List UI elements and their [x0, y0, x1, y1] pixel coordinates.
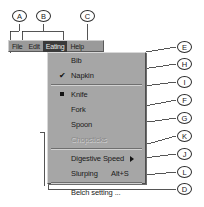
figure-root: File Edit Eating Help Bib ✔ Napkin Knife…	[0, 0, 204, 207]
menu-separator-2	[51, 148, 142, 150]
menubar-item-edit-label: Edit	[28, 43, 39, 50]
menu-item-spoon[interactable]: Spoon	[48, 117, 145, 132]
callout-F: F	[177, 94, 192, 106]
menu-item-bib-label: Bib	[71, 57, 82, 65]
callout-K: K	[177, 130, 192, 142]
callout-C: C	[80, 10, 95, 22]
eating-dropdown-menu: Bib ✔ Napkin Knife Fork Spoon Chopsticks…	[47, 52, 146, 184]
menubar-item-help-label: Help	[70, 43, 84, 50]
menu-item-digestive-speed-label: Digestive Speed	[71, 155, 124, 163]
callout-D: D	[177, 183, 192, 195]
callout-L: L	[177, 166, 192, 178]
menubar-item-edit[interactable]: Edit	[25, 41, 42, 52]
menubar-item-eating-label: Eating	[46, 43, 65, 50]
menu-item-spoon-label: Spoon	[71, 121, 92, 129]
menu-item-knife-label: Knife	[71, 91, 88, 99]
menu-item-fork[interactable]: Fork	[48, 102, 145, 117]
callout-J: J	[177, 148, 192, 160]
menu-item-belch-setting-label: Belch setting ...	[71, 189, 121, 197]
menu-item-fork-label: Fork	[71, 106, 86, 114]
callout-E: E	[177, 41, 192, 53]
menubar-item-file[interactable]: File	[9, 41, 25, 52]
callout-G: G	[177, 112, 192, 124]
menubar-item-eating[interactable]: Eating	[43, 41, 68, 52]
menu-separator-3	[51, 182, 142, 184]
leader-E	[146, 47, 176, 52]
menu-bar: File Edit Eating Help	[8, 40, 104, 52]
callout-B: B	[36, 10, 51, 22]
menu-item-slurping-accelerator: Alt+S	[111, 170, 129, 178]
menu-item-slurping[interactable]: Slurping Alt+S	[48, 166, 145, 181]
menu-separator-1	[51, 84, 142, 86]
callout-H: H	[177, 58, 192, 70]
leader-D-bracket	[40, 132, 44, 186]
menu-item-digestive-speed[interactable]: Digestive Speed	[48, 151, 145, 166]
radio-bullet-icon	[60, 92, 64, 96]
menu-item-slurping-label: Slurping	[71, 170, 98, 178]
menu-item-napkin[interactable]: ✔ Napkin	[48, 68, 145, 83]
menu-item-napkin-label: Napkin	[71, 72, 94, 80]
menu-item-bib[interactable]: Bib	[48, 53, 145, 68]
menu-item-chopsticks: Chopsticks	[48, 132, 145, 147]
checkmark-icon: ✔	[58, 72, 67, 80]
menu-item-belch-setting[interactable]: Belch setting ...	[48, 185, 145, 200]
menu-item-knife[interactable]: Knife	[48, 87, 145, 102]
submenu-arrow-icon	[130, 156, 134, 162]
menubar-item-help[interactable]: Help	[67, 41, 87, 52]
menubar-item-file-label: File	[12, 43, 22, 50]
callout-A: A	[12, 10, 27, 22]
callout-I: I	[177, 76, 192, 88]
menu-item-chopsticks-label: Chopsticks	[71, 136, 107, 144]
